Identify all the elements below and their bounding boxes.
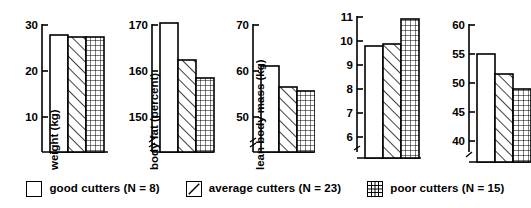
y-tick-age-0: 30 [25,19,38,31]
legend-swatch-diagonal-hatch-icon [186,181,202,197]
y-tick-bodyfat-1: 10 [340,35,353,47]
legend-swatch-cross-hatch-icon [367,181,383,197]
y-tick-lbm-1: 55 [452,48,465,60]
legend-item-poor-cutters: poor cutters (N = 15) [367,181,504,197]
y-tick-height-1: 160 [129,65,148,77]
panel-row: age (years) 30 [0,0,531,170]
legend-label-good-cutters: good cutters (N = 8) [49,183,159,195]
y-tick-bodyfat-0: 11 [341,11,354,23]
y-tick-lbm-4: 40 [452,135,465,147]
legend-item-good-cutters: good cutters (N = 8) [26,181,159,197]
y-tick-height-0: 170 [129,19,148,31]
y-tick-lbm-0: 60 [452,19,465,31]
y-tick-age-1: 20 [25,65,38,77]
bar-lbm-good [477,54,495,162]
legend-swatch-open-icon [26,181,42,197]
figure-bar-chart-panels: age (years) 30 [0,0,531,208]
y-axis-lean-body-mass: 60 55 50 45 40 [452,19,475,157]
bar-lbm-poor [513,89,531,162]
legend: good cutters (N = 8) average cutters (N … [0,172,531,206]
bar-lbm-average [495,74,513,162]
legend-item-average-cutters: average cutters (N = 23) [186,181,341,197]
y-tick-lbm-3: 45 [452,106,465,118]
legend-label-average-cutters: average cutters (N = 23) [209,183,341,195]
axis-break-lean-body-mass [466,152,472,157]
y-tick-lbm-2: 50 [452,77,465,89]
y-tick-weight-0: 70 [236,19,249,31]
plot-area-lean-body-mass: 60 55 50 45 40 [423,0,531,170]
panel-lean-body-mass: lean body mass (kg) [423,0,531,170]
legend-label-poor-cutters: poor cutters (N = 15) [390,183,504,195]
axis-title-lean-body-mass: lean body mass (kg) [255,59,425,170]
